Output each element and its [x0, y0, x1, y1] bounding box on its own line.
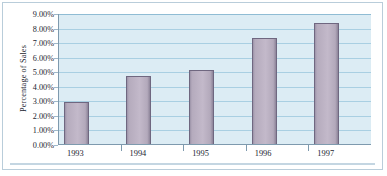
y-axis-tick-label: 9.00% [14, 10, 54, 19]
x-axis-tick-label: 1994 [111, 149, 164, 158]
bar-slot [64, 14, 89, 144]
x-axis-tick-label: 1995 [174, 149, 227, 158]
bar-slot [126, 14, 151, 144]
y-axis-tick-label: 2.00% [14, 112, 54, 121]
bar-slot [252, 14, 277, 144]
y-axis-tick-label: 4.00% [14, 83, 54, 92]
plot-area [58, 14, 371, 145]
y-axis-tick-label: 7.00% [14, 39, 54, 48]
bar-slot [314, 14, 339, 144]
y-axis-tick-mark [54, 87, 58, 88]
y-axis-tick-mark [54, 116, 58, 117]
bar[interactable] [64, 102, 89, 144]
bar[interactable] [189, 70, 214, 144]
x-axis-tick-mark [308, 145, 309, 151]
bar-chart-figure: Percentage of Sales 0.00%1.00%2.00%3.00%… [0, 0, 387, 176]
bar[interactable] [252, 38, 277, 144]
x-axis-tick-label: 1996 [237, 149, 290, 158]
y-axis-tick-label: 5.00% [14, 68, 54, 77]
x-axis-tick-mark [121, 145, 122, 151]
y-axis-tick-mark [54, 43, 58, 44]
bar[interactable] [126, 76, 151, 144]
y-axis-tick-labels: 0.00%1.00%2.00%3.00%4.00%5.00%6.00%7.00%… [14, 10, 54, 150]
y-axis-tick-label: 6.00% [14, 54, 54, 63]
y-axis-tick-mark [54, 14, 58, 15]
x-axis-tick-mark [183, 145, 184, 151]
y-axis-tick-mark [54, 58, 58, 59]
x-axis-tick-mark [246, 145, 247, 151]
y-axis-tick-label: 8.00% [14, 25, 54, 34]
x-axis-tick-label: 1993 [49, 149, 102, 158]
y-axis-tick-label: 1.00% [14, 126, 54, 135]
y-axis-tick-mark [54, 29, 58, 30]
bar-slot [189, 14, 214, 144]
bars-group [59, 14, 371, 144]
y-axis-tick-mark [54, 72, 58, 73]
y-axis-tick-mark [54, 101, 58, 102]
y-axis-tick-label: 3.00% [14, 97, 54, 106]
y-axis-tick-mark [54, 130, 58, 131]
y-axis-tick-mark [54, 145, 58, 146]
bar[interactable] [314, 23, 339, 144]
bottom-rule [10, 163, 375, 165]
